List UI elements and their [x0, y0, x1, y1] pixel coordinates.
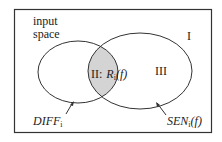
- region-ii-label: II: Ri(f): [91, 65, 127, 82]
- region-ii-arg: (f): [116, 67, 127, 81]
- region-iii-label: III: [155, 65, 167, 77]
- input-space-label-line2: space: [33, 28, 60, 40]
- diff-sub: i: [60, 120, 62, 129]
- venn-diagram: input space I III II: Ri(f) DIFFi SENi(f…: [0, 0, 222, 142]
- sen-name: SEN: [167, 114, 188, 128]
- region-ii-func: R: [106, 67, 113, 81]
- sen-set-label: SENi(f): [167, 115, 202, 129]
- region-ii-numeral: II:: [91, 67, 102, 81]
- diff-name: DIFF: [33, 114, 60, 128]
- region-i-label: I: [187, 30, 191, 42]
- sen-arg: (f): [191, 114, 202, 128]
- input-space-label-line1: input: [33, 15, 58, 27]
- diff-set-label: DIFFi: [33, 115, 63, 129]
